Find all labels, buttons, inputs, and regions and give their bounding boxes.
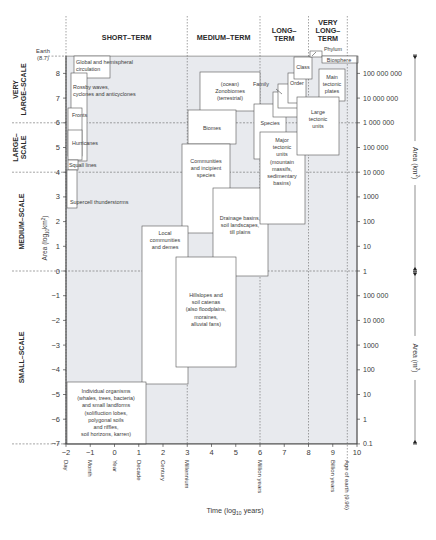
phenomenon-label: Communities — [190, 158, 222, 164]
phenomenon-label: Rossby waves, — [73, 84, 110, 90]
phenomenon-label: and riffles, — [94, 424, 119, 430]
right-tick-label: 1000 — [363, 193, 379, 200]
phenomenon-label: soil landscapes, — [221, 222, 260, 228]
earth-label: Earth — [36, 48, 50, 54]
phenomenon-box: Biosphere — [322, 56, 358, 63]
y-tick-label: 8 — [56, 69, 60, 78]
space-category-label: LARGE–SCALE — [20, 63, 27, 115]
m2-bracket-arrow — [413, 440, 417, 443]
y-tick-label: 6 — [56, 118, 60, 127]
x-axis-title-part: years) — [242, 506, 264, 515]
y-tick-label: −3 — [51, 341, 60, 350]
phenomenon-label: (also floodplains, — [186, 306, 227, 312]
phenomenon-box: Phylum — [310, 46, 342, 57]
y-tick-label: −1 — [51, 291, 60, 300]
earth-value-label: (8.7) — [37, 55, 49, 61]
x-tick-label: 1 — [137, 448, 141, 457]
right-tick-label: 10 000 — [363, 317, 385, 324]
phenomenon-label: Family — [253, 81, 269, 87]
time-annotation: Decade — [136, 460, 142, 481]
bracket-label-part: ) — [411, 177, 419, 179]
y-tick-label: 4 — [56, 168, 60, 177]
x-tick-label: 7 — [282, 448, 286, 457]
space-category-label: VERY — [12, 80, 19, 99]
phenomenon-label: Order — [290, 80, 304, 86]
phenomenon-label: tectonic — [323, 81, 342, 87]
x-tick-label: 9 — [331, 448, 335, 457]
x-tick-label: 10 — [353, 448, 361, 457]
km2-bracket-arrow — [413, 56, 417, 59]
phenomenon-label: sedimentary — [267, 173, 297, 179]
y-axis-title-part: km — [41, 220, 48, 229]
phenomenon-label: Hillslopes and — [189, 292, 223, 298]
phenomenon-label: Major — [275, 137, 289, 143]
phenomenon-label: Species — [260, 120, 279, 126]
phenomenon-label: soil horizons, karren) — [81, 431, 131, 437]
bracket-label-part: Area (km — [411, 147, 419, 175]
km2-bracket-label: Area (km2) — [411, 147, 420, 179]
phenomenon-label: soil catenas — [192, 299, 221, 305]
right-tick-label: 10 000 000 — [363, 95, 398, 102]
x-tick-label: 0 — [112, 448, 116, 457]
m2-bracket-arrow — [413, 273, 417, 276]
time-annotation: Age of earth (9.96) — [344, 460, 350, 510]
phenomenon-label: Drainage basins, — [220, 215, 261, 221]
phenomenon-label: Biosphere — [327, 57, 351, 63]
km2-bracket-arrow — [413, 267, 417, 270]
phenomenon-label: Squall lines — [69, 162, 97, 168]
right-tick-label: 100 — [363, 366, 375, 373]
right-tick-label: 1 — [363, 268, 367, 275]
phenomenon-label: units — [276, 151, 288, 157]
bracket-label-part: ) — [411, 370, 419, 372]
phenomenon-label: (ocean) — [221, 81, 239, 87]
phenomenon-label: (terrestrial) — [217, 95, 243, 101]
y-tick-label: −5 — [51, 390, 60, 399]
time-annotation: Year — [112, 460, 118, 472]
phenomenon-label: cyclones and anticyclones — [73, 91, 136, 97]
phenomenon-box: Individual organisms(whales, trees, bact… — [67, 382, 146, 444]
phenomenon-label: basins) — [273, 180, 291, 186]
y-tick-label: −7 — [51, 439, 60, 448]
phenomenon-label: moraines, — [194, 314, 218, 320]
x-axis-title-part: Time (log — [206, 506, 236, 515]
phenomenon-label: (solifluction lobes, — [85, 410, 128, 416]
phenomenon-box: (ocean)Zonobiomes(terrestrial) — [200, 72, 260, 111]
time-category-label: MEDIUM–TERM — [197, 33, 251, 42]
right-tick-label: 10 — [363, 243, 371, 250]
phenomenon-label: Main — [326, 74, 338, 80]
phenomenon-label: and small landforms — [82, 402, 131, 408]
phenomenon-label: Local — [159, 230, 172, 236]
right-tick-label: 100 000 000 — [363, 70, 402, 77]
right-tick-label: 100 000 — [363, 144, 388, 151]
time-annotation: Century — [160, 460, 166, 481]
y-axis-title: Area (log10km2) — [41, 216, 50, 261]
space-category-label: SMALL–SCALE — [18, 331, 25, 383]
x-tick-label: 3 — [185, 448, 189, 457]
phenomenon-label: Hurricanes — [72, 140, 98, 146]
time-annotation: Month — [87, 460, 93, 477]
y-tick-label: 7 — [56, 94, 60, 103]
space-category-label: MEDIUM–SCALE — [18, 193, 25, 249]
box-rect — [310, 51, 322, 57]
y-tick-label: −2 — [51, 316, 60, 325]
right-area-axis: 100 000 00010 000 0001 000 000100 00010 … — [357, 55, 420, 447]
phenomenon-label: units — [312, 123, 324, 129]
time-category-label: TERM — [318, 34, 338, 43]
right-tick-label: 0.1 — [363, 440, 373, 447]
y-tick-label: 1 — [56, 242, 60, 251]
phenomenon-label: Zonobiomes — [215, 88, 245, 94]
time-annotation: Million years — [257, 460, 263, 493]
time-category-label: SHORT–TERM — [102, 33, 152, 42]
time-annotation: Billion years — [330, 460, 336, 492]
x-tick-label: −2 — [62, 448, 71, 457]
right-tick-label: 1000 — [363, 342, 379, 349]
phenomenon-label: Large — [311, 109, 325, 115]
y-tick-label: 0 — [56, 267, 60, 276]
right-tick-label: 100 — [363, 218, 375, 225]
phenomenon-label: communities — [150, 237, 181, 243]
phenomenon-label: Phylum — [324, 46, 342, 52]
phenomenon-box: Largetectonicunits — [297, 97, 339, 155]
phenomenon-label: circulation — [76, 66, 100, 72]
phenomenon-label: and demes — [152, 244, 179, 250]
phenomenon-box: Maintectonicplates — [319, 69, 345, 101]
